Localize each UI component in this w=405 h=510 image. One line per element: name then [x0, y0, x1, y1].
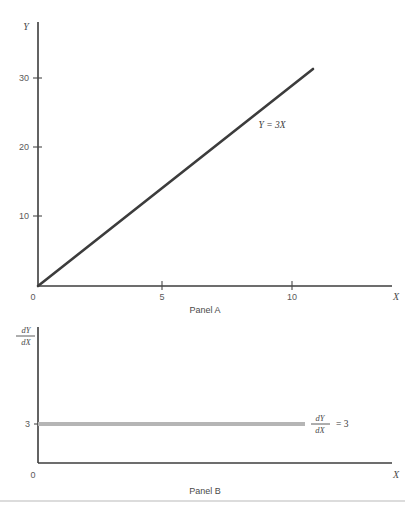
panel-b-equation-denominator: dX — [315, 425, 325, 435]
panel-b-x-axis-label: X — [392, 469, 400, 480]
panel-b-ytick-3-label: 3 — [25, 419, 30, 429]
panel-a-xtick-10-label: 10 — [287, 292, 297, 302]
panel-a-equation-annotation: Y = 3X — [259, 120, 287, 130]
chart-canvas: 30 20 10 0 5 10 Y X Y = 3X Panel A 3 — [0, 0, 405, 510]
panel-b-group: 3 0 dY dX X dY dX = 3 Panel B — [16, 325, 400, 496]
panel-a-ytick-30-label: 30 — [19, 73, 29, 83]
panel-b-equation-tail: = 3 — [336, 419, 349, 429]
panel-b-y-axis-denominator: dX — [21, 337, 31, 347]
panel-b-y-axis-numerator: dY — [22, 325, 32, 335]
panel-b-equation-numerator: dY — [316, 413, 326, 423]
panel-b-y-axis-label: dY dX — [16, 325, 35, 347]
panel-a-group: 30 20 10 0 5 10 Y X Y = 3X Panel A — [19, 21, 400, 315]
panel-a-xtick-5-label: 5 — [159, 292, 164, 302]
panel-a-ytick-20-label: 20 — [19, 142, 29, 152]
panel-a-x-axis-label: X — [392, 291, 400, 302]
panel-a-line-series — [38, 69, 313, 286]
panel-a-y-axis-label: Y — [23, 21, 30, 32]
panel-a-origin-label: 0 — [30, 292, 35, 302]
panel-b-equation-annotation: dY dX = 3 — [311, 413, 349, 435]
panel-b-caption: Panel B — [189, 486, 221, 496]
figure-container: 30 20 10 0 5 10 Y X Y = 3X Panel A 3 — [0, 0, 405, 510]
panel-b-origin-label: 0 — [30, 470, 35, 480]
panel-a-caption: Panel A — [189, 305, 220, 315]
panel-a-ytick-10-label: 10 — [19, 211, 29, 221]
